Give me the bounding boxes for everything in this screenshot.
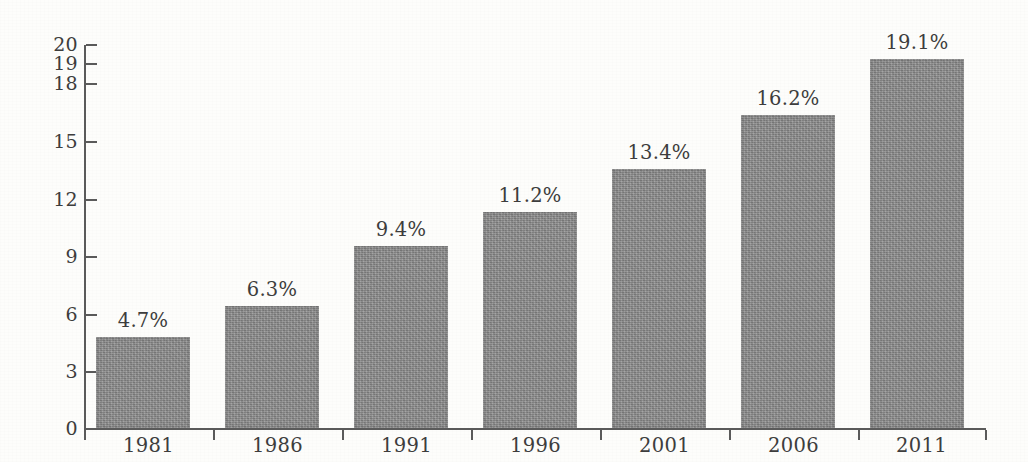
bar-1996[interactable] bbox=[483, 212, 577, 428]
y-axis-tick-12 bbox=[86, 199, 97, 201]
bar-value-2006: 16.2% bbox=[741, 89, 835, 109]
y-axis-label-12: 12 bbox=[34, 190, 78, 209]
y-axis-label-19: 19 bbox=[34, 54, 78, 73]
y-axis-tick-9 bbox=[86, 256, 97, 258]
bar-2006[interactable] bbox=[741, 115, 835, 428]
bar-value-2011: 19.1% bbox=[870, 33, 964, 53]
y-axis-label-6: 6 bbox=[34, 305, 78, 324]
y-axis-tick-15 bbox=[86, 141, 97, 143]
y-axis-tick-20 bbox=[86, 44, 97, 46]
bar-chart: 20 19 18 15 12 9 6 3 0 4.7% bbox=[0, 0, 1028, 462]
bar-value-1981: 4.7% bbox=[96, 311, 190, 331]
y-axis-label-3: 3 bbox=[34, 362, 78, 381]
x-axis-label-1986: 1986 bbox=[213, 434, 342, 458]
plot-area: 20 19 18 15 12 9 6 3 0 4.7% bbox=[0, 0, 1028, 462]
bar-2011[interactable] bbox=[870, 59, 964, 428]
bar-2001[interactable] bbox=[612, 169, 706, 428]
bar-value-1991: 9.4% bbox=[354, 220, 448, 240]
y-axis-label-18: 18 bbox=[34, 74, 78, 93]
x-axis-label-2006: 2006 bbox=[729, 434, 858, 458]
y-axis-label-0: 0 bbox=[34, 419, 78, 438]
x-axis-label-2001: 2001 bbox=[600, 434, 729, 458]
y-axis-label-9: 9 bbox=[34, 247, 78, 266]
y-axis-tick-19 bbox=[86, 63, 97, 65]
bar-value-1996: 11.2% bbox=[483, 186, 577, 206]
y-axis-tick-18 bbox=[86, 83, 97, 85]
x-axis-line bbox=[84, 428, 986, 430]
y-axis-label-15: 15 bbox=[34, 132, 78, 151]
bar-1986[interactable] bbox=[225, 306, 319, 428]
x-axis-tick-7 bbox=[985, 430, 987, 440]
x-axis-label-2011: 2011 bbox=[858, 434, 985, 458]
x-axis-label-1981: 1981 bbox=[84, 434, 213, 458]
bar-1991[interactable] bbox=[354, 246, 448, 428]
bar-value-2001: 13.4% bbox=[612, 143, 706, 163]
bar-1981[interactable] bbox=[96, 337, 190, 428]
bar-value-1986: 6.3% bbox=[225, 280, 319, 300]
x-axis-label-1996: 1996 bbox=[471, 434, 600, 458]
x-axis-label-1991: 1991 bbox=[342, 434, 471, 458]
